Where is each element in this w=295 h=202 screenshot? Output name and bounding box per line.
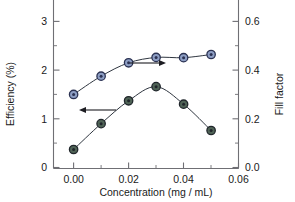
- series-line: [74, 87, 212, 150]
- data-point-marker-center: [182, 56, 185, 59]
- data-point-marker-center: [127, 61, 130, 64]
- data-point-marker-center: [100, 75, 103, 78]
- data-point-marker-center: [127, 99, 130, 102]
- y-axis-right-ticks: [233, 21, 239, 167]
- y-axis-left-title: Efficiency (%): [4, 62, 16, 126]
- y-axis-right-title: Fill factor: [273, 72, 285, 115]
- x-tick-label-0: 0.00: [63, 173, 84, 185]
- data-point-marker-center: [210, 53, 213, 56]
- x-tick-label-1: 0.02: [118, 173, 139, 185]
- y-axis-left-ticks: [54, 21, 60, 167]
- series-line: [74, 55, 212, 95]
- x-tick-label-2: 0.04: [173, 173, 194, 185]
- y2-tick-label-1: 0.2: [245, 113, 260, 125]
- arrow-head-icon: [159, 60, 166, 66]
- y-tick-label-0: 0: [41, 161, 47, 173]
- data-point-marker-center: [155, 85, 158, 88]
- series-layer: [69, 50, 215, 153]
- data-point-marker-center: [182, 103, 185, 106]
- x-axis-ticks: [74, 163, 239, 169]
- chart-plot-svg: 0 1 2 3 0.0 0.2 0.4 0.6 0.00 0.02 0.04 0…: [0, 0, 295, 202]
- x-axis-title: Concentration (mg / mL): [99, 186, 212, 198]
- y2-tick-label-0: 0.0: [245, 161, 260, 173]
- data-point-marker-center: [100, 122, 103, 125]
- y-tick-label-1: 1: [41, 113, 47, 125]
- data-point-marker-center: [72, 93, 75, 96]
- y-tick-label-3: 3: [41, 15, 47, 27]
- y-tick-label-2: 2: [41, 64, 47, 76]
- arrow-head-icon: [79, 107, 86, 113]
- data-point-marker-center: [72, 148, 75, 151]
- data-point-marker-center: [210, 129, 213, 132]
- chart-figure: 0 1 2 3 0.0 0.2 0.4 0.6 0.00 0.02 0.04 0…: [0, 0, 295, 202]
- y2-tick-label-3: 0.6: [245, 15, 260, 27]
- x-tick-label-3: 0.06: [228, 173, 249, 185]
- arrow-to-left-axis: [79, 107, 116, 113]
- series-efficiency: [69, 82, 215, 153]
- data-point-marker-center: [155, 56, 158, 59]
- y2-tick-label-2: 0.4: [245, 64, 260, 76]
